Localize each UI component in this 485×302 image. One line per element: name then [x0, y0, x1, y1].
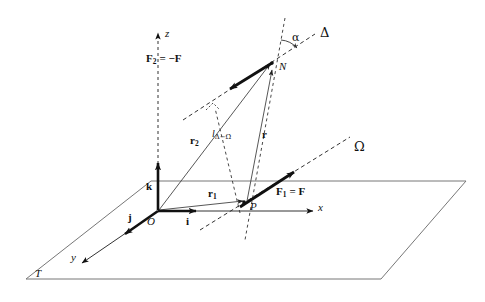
angle-label-alpha: α [292, 32, 299, 43]
vector-r1 [159, 201, 243, 210]
vector-label-r1: r1 [208, 188, 217, 201]
vector-label-F1-sub: 1 [283, 190, 287, 199]
point-N-dot [270, 61, 274, 65]
vector-label-F1-main: F [276, 185, 283, 197]
distance-label-sub: Δ−Ω [215, 133, 231, 141]
distance-label-l-delta-omega: lΔ−Ω [212, 129, 231, 141]
axis-label-y: y [71, 252, 76, 263]
vector-label-F2-rhs: = −F [159, 52, 181, 64]
vector-label-i: i [186, 216, 189, 227]
vector-label-F2: F2= −F [146, 53, 181, 66]
vector-label-r2-sub: 2 [195, 139, 199, 148]
vector-label-F1-rhs: = F [289, 185, 305, 197]
point-P-dot [242, 200, 246, 204]
figure-canvas: z x y O k i j N P Δ Ω T α F2= −F F1= F r… [0, 0, 485, 302]
point-label-O: O [147, 216, 155, 227]
axis-label-x: x [318, 202, 323, 213]
point-label-N: N [279, 61, 286, 72]
plane-T [26, 181, 466, 279]
vector-label-j: j [128, 212, 132, 223]
vector-F2 [230, 63, 272, 89]
vector-label-F1: F1= F [276, 186, 305, 199]
vector-label-F2-main: F [146, 52, 153, 64]
plane-label-T: T [35, 268, 41, 279]
vector-label-r2: r2 [190, 135, 199, 148]
vector-label-k: k [146, 181, 152, 192]
vector-label-r1-sub: 1 [213, 192, 217, 201]
line-label-omega: Ω [354, 140, 365, 153]
line-label-delta: Δ [320, 26, 329, 39]
vector-label-F2-sub: 2 [153, 57, 157, 66]
point-label-P: P [250, 201, 257, 212]
vector-label-r: r [262, 129, 267, 140]
axis-label-z: z [165, 28, 169, 39]
